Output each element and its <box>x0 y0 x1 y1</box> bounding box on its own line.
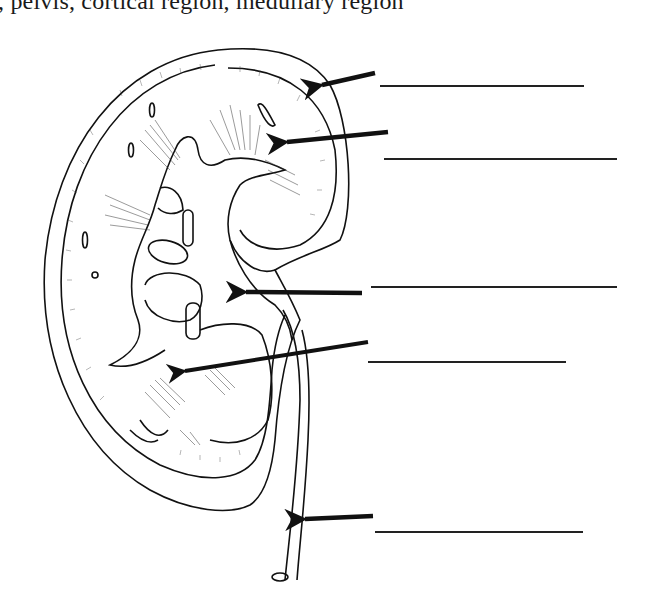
arrow-capsule <box>322 73 375 85</box>
answer-line-cortex[interactable] <box>384 158 617 160</box>
cortex-stipple <box>66 64 325 462</box>
arrow-pyramid <box>185 342 368 371</box>
kidney-diagram <box>0 0 649 613</box>
arrow-ureter <box>305 516 373 519</box>
answer-line-pelvis[interactable] <box>371 286 617 288</box>
answer-line-pyramid[interactable] <box>368 361 566 363</box>
arrow-cortex <box>287 132 388 142</box>
pointer-arrows <box>185 73 388 519</box>
answer-line-capsule[interactable] <box>380 85 584 87</box>
arrow-pelvis <box>246 292 362 293</box>
answer-line-ureter[interactable] <box>375 531 583 533</box>
kidney-outline <box>44 49 348 581</box>
